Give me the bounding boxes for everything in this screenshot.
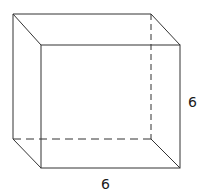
height-label: 6 xyxy=(188,95,197,109)
width-label: 6 xyxy=(101,177,110,191)
cube-diagram xyxy=(0,0,203,194)
edge-connect-bottom-left xyxy=(13,139,41,168)
edge-connect-top-left xyxy=(13,14,41,45)
front-face xyxy=(41,45,180,168)
edge-connect-top-right xyxy=(151,14,180,45)
edge-connect-bottom-right-hidden xyxy=(151,139,180,168)
